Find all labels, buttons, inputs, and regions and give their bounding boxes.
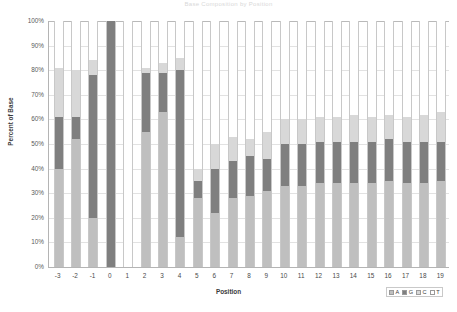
bar-outline (419, 21, 429, 267)
bar-position-13[interactable] (332, 21, 342, 267)
y-tick-label: 10% (4, 239, 44, 245)
x-tick-label: 19 (430, 272, 450, 279)
bar-outline (210, 21, 220, 267)
bar-outline (141, 21, 151, 267)
bar-outline (54, 21, 64, 267)
y-tick-label: 0% (4, 264, 44, 270)
legend-label-G: G (409, 289, 413, 295)
bar-position-10[interactable] (280, 21, 290, 267)
legend-swatch-T (430, 290, 435, 295)
bar-position--1[interactable] (88, 21, 98, 267)
legend-label-C: C (423, 289, 427, 295)
chart-root: Base Composition by Position Percent of … (0, 0, 457, 312)
y-tick-label: 80% (4, 67, 44, 73)
bar-position-12[interactable] (315, 21, 325, 267)
bar-position-18[interactable] (419, 21, 429, 267)
bar-outline (158, 21, 168, 267)
bar-position-1[interactable] (123, 21, 133, 267)
legend-swatch-A (389, 290, 394, 295)
bar-position-19[interactable] (436, 21, 446, 267)
legend-label-A: A (396, 289, 400, 295)
bar-outline (88, 21, 98, 267)
legend-swatch-C (416, 290, 421, 295)
bars-layer (50, 21, 449, 267)
legend-item-G[interactable]: G (402, 289, 413, 295)
bar-outline (297, 21, 307, 267)
legend-swatch-G (402, 290, 407, 295)
bar-outline (402, 21, 412, 267)
bar-position-5[interactable] (193, 21, 203, 267)
bar-position-17[interactable] (402, 21, 412, 267)
legend-label-T: T (436, 289, 439, 295)
bar-outline (228, 21, 238, 267)
bar-position-6[interactable] (210, 21, 220, 267)
plot-area (48, 21, 449, 268)
bar-position-3[interactable] (158, 21, 168, 267)
bar-outline (280, 21, 290, 267)
bar-position--2[interactable] (71, 21, 81, 267)
y-tick-label: 20% (4, 215, 44, 221)
y-tick-label: 30% (4, 190, 44, 196)
bar-outline (384, 21, 394, 267)
bar-outline (315, 21, 325, 267)
bar-position-11[interactable] (297, 21, 307, 267)
bar-position--3[interactable] (54, 21, 64, 267)
chart-title: Base Composition by Position (0, 0, 457, 8)
bar-position-16[interactable] (384, 21, 394, 267)
bar-position-2[interactable] (141, 21, 151, 267)
bar-outline (123, 21, 133, 267)
bar-position-4[interactable] (175, 21, 185, 267)
bar-outline (71, 21, 81, 267)
bar-position-15[interactable] (367, 21, 377, 267)
bar-outline (106, 21, 116, 267)
bar-position-0[interactable] (106, 21, 116, 267)
bar-position-7[interactable] (228, 21, 238, 267)
bar-position-9[interactable] (262, 21, 272, 267)
bar-outline (245, 21, 255, 267)
bar-outline (367, 21, 377, 267)
legend-item-A[interactable]: A (389, 289, 399, 295)
bar-outline (332, 21, 342, 267)
legend-item-T[interactable]: T (430, 289, 440, 295)
y-tick-label: 90% (4, 43, 44, 49)
bar-position-14[interactable] (349, 21, 359, 267)
bar-position-8[interactable] (245, 21, 255, 267)
y-tick-label: 100% (4, 18, 44, 24)
bar-outline (349, 21, 359, 267)
bar-outline (175, 21, 185, 267)
bar-outline (436, 21, 446, 267)
y-tick-label: 40% (4, 166, 44, 172)
legend-item-C[interactable]: C (416, 289, 427, 295)
chart-legend[interactable]: AGCT (386, 287, 443, 297)
y-axis-title: Percent of Base (7, 94, 14, 150)
bar-outline (262, 21, 272, 267)
bar-outline (193, 21, 203, 267)
